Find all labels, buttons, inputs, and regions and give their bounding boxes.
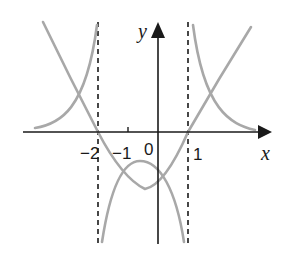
y-axis-arrow-icon: [151, 22, 165, 38]
graph-figure: −2 −1 0 1 x y: [0, 0, 308, 260]
y-axis-label: y: [136, 20, 147, 43]
tick-label-1: 1: [193, 145, 202, 164]
reciprocal-middle-branch: [102, 161, 184, 242]
x-axis-label: x: [260, 142, 270, 164]
reciprocal-right-branch: [193, 25, 255, 130]
parabola-curve: [43, 22, 251, 189]
tick-label-0: 0: [144, 140, 153, 159]
tick-label-minus-1: −1: [112, 144, 131, 163]
tick-label-minus-2: −2: [80, 144, 99, 163]
x-axis-arrow-icon: [258, 125, 272, 139]
